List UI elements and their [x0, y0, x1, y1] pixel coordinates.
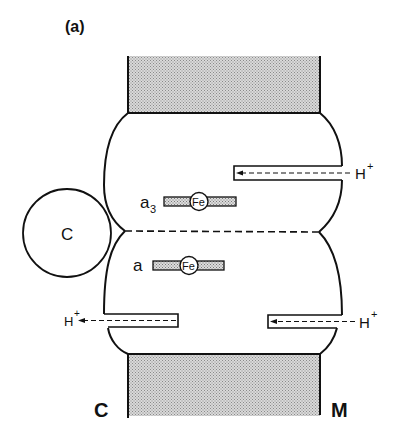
- side-label-matrix: M: [331, 399, 348, 421]
- membrane-top: [128, 56, 320, 113]
- cytochrome-c: C: [23, 189, 111, 277]
- heme-label: a: [133, 256, 143, 275]
- cytochrome-oxidase-diagram: (a) H +: [0, 0, 402, 443]
- panel-label: (a): [65, 18, 85, 35]
- heme-label: a: [140, 193, 150, 212]
- fe-label: Fe: [182, 260, 195, 272]
- heme-subscript: 3: [150, 203, 156, 215]
- protein-lower-lobe: [104, 231, 342, 354]
- proton-label: H: [359, 314, 370, 331]
- proton-channel-upper-right: H +: [234, 160, 373, 182]
- proton-channel-lower-right: H +: [268, 308, 377, 331]
- proton-channel-lower-left: H +: [64, 308, 178, 329]
- proton-charge: +: [367, 160, 373, 172]
- proton-charge: +: [74, 308, 80, 319]
- proton-charge: +: [371, 308, 377, 320]
- membrane-bottom: [128, 354, 320, 418]
- cytochrome-c-label: C: [61, 225, 73, 244]
- side-label-cytoplasmic: C: [94, 399, 108, 421]
- proton-label: H: [355, 165, 366, 182]
- proton-label: H: [64, 314, 73, 329]
- heme-a: a Fe: [133, 256, 224, 275]
- membrane-midline: [125, 231, 319, 232]
- heme-a3: a 3 Fe: [140, 193, 236, 216]
- fe-label: Fe: [192, 196, 205, 208]
